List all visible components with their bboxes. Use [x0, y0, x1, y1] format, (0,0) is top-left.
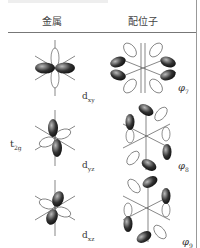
dyz-orbital-diagram: [30, 108, 80, 168]
dxz-label: dxz: [82, 230, 94, 242]
phi8-orbital-diagram: [118, 102, 178, 174]
dxy-orbital-diagram: [30, 38, 80, 98]
dxy-label: dxy: [82, 91, 95, 103]
phi9-orbital-diagram: [118, 174, 178, 246]
column-header-ligand: 配位子: [128, 13, 158, 28]
column-header-metal: 金属: [42, 13, 62, 28]
dyz-label: dyz: [82, 160, 94, 172]
phi8-label: φ8: [178, 160, 189, 173]
phi7-label: φ7: [178, 82, 189, 95]
t2g-label: t2g: [10, 138, 22, 151]
phi7-orbital-diagram: [108, 38, 178, 98]
header-rule: [8, 32, 196, 33]
dxz-orbital-diagram: [30, 178, 80, 238]
cut-off-caption: [8, 0, 108, 3]
table-right-border: [196, 0, 197, 248]
phi9-label: φ9: [182, 236, 193, 248]
